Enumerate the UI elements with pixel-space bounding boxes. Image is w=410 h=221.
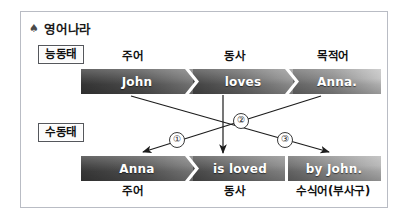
passive-role-subject: 주어 xyxy=(81,183,185,200)
passive-role-row: 주어 동사 수식어(부사구) xyxy=(81,183,381,200)
active-segment-subject: John xyxy=(81,69,193,94)
passive-role-verb: 동사 xyxy=(185,183,285,200)
active-role-subject: 주어 xyxy=(81,48,185,65)
diagram-root: ♠ 영어나라 능동태 수동태 주어 동사 목적어 John loves Anna… xyxy=(0,0,410,221)
active-segment-object: Anna. xyxy=(293,69,381,94)
marker-one: ① xyxy=(169,132,185,148)
passive-sentence-bar: Anna is loved by John. xyxy=(81,156,381,181)
active-segment-verb: loves xyxy=(193,69,293,94)
active-role-verb: 동사 xyxy=(185,48,285,65)
passive-segment-adverbial: by John. xyxy=(287,156,381,181)
page-title: ♠ 영어나라 xyxy=(29,19,91,38)
arrow-subject-to-adverbial xyxy=(131,96,329,152)
page-title-text: 영어나라 xyxy=(44,19,91,38)
passive-voice-label: 수동태 xyxy=(38,123,84,142)
straight-separator xyxy=(285,156,288,181)
passive-segment-subject: Anna xyxy=(81,156,193,181)
active-voice-label: 능동태 xyxy=(38,45,84,64)
active-sentence-bar: John loves Anna. xyxy=(81,69,381,94)
active-role-object: 목적어 xyxy=(285,48,381,65)
marker-two: ② xyxy=(233,113,249,129)
active-role-row: 주어 동사 목적어 xyxy=(81,48,381,65)
spade-icon: ♠ xyxy=(29,23,39,34)
passive-role-adverbial: 수식어(부사구) xyxy=(285,183,381,200)
passive-segment-verb: is loved xyxy=(193,156,287,181)
marker-three: ③ xyxy=(277,132,293,148)
diagram-card: ♠ 영어나라 능동태 수동태 주어 동사 목적어 John loves Anna… xyxy=(20,11,388,208)
